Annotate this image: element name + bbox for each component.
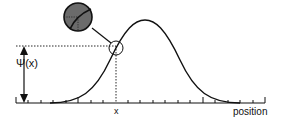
arrow-head-up-icon — [20, 46, 28, 55]
wavefunction-curve — [50, 20, 240, 103]
x-axis-label: position — [233, 106, 267, 117]
y-axis-label: Ψ(x) — [16, 57, 38, 69]
x-marker-label: x — [114, 106, 119, 116]
wavefunction-diagram — [0, 0, 283, 123]
arrow-head-down-icon — [20, 94, 28, 103]
inset-connector — [92, 28, 111, 43]
